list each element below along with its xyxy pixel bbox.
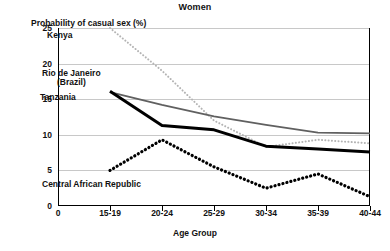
y-axis-tick-label: 10 bbox=[26, 130, 52, 140]
x-axis-tick-label: 25-29 bbox=[203, 208, 225, 218]
series-line-kenya bbox=[110, 28, 370, 147]
x-axis-title: Age Group bbox=[0, 228, 390, 238]
series-annotation-label: Central African Republic bbox=[42, 180, 141, 189]
series-line-tanzania bbox=[110, 91, 370, 152]
x-axis-tick-label: 15-19 bbox=[99, 208, 121, 218]
y-axis-tick-label: 5 bbox=[26, 165, 52, 175]
x-axis-tick-label-origin: 0 bbox=[56, 208, 61, 218]
chart-title: Women bbox=[0, 2, 390, 12]
series-annotation-label: Tanzania bbox=[40, 93, 76, 102]
chart-root: Women Probability of casual sex (%) 0510… bbox=[0, 0, 390, 251]
x-axis-tick-label: 40-44 bbox=[359, 208, 381, 218]
y-axis-tick-label: 0 bbox=[26, 201, 52, 211]
x-axis-tick-label: 20-24 bbox=[151, 208, 173, 218]
series-line-rio-de-janeiro-brazil bbox=[110, 92, 370, 133]
series-annotation-label: Kenya bbox=[47, 31, 73, 40]
series-annotation-label: (Brazil) bbox=[57, 78, 86, 87]
x-axis-tick-label: 35-39 bbox=[307, 208, 329, 218]
x-axis-tick-label: 30-34 bbox=[255, 208, 277, 218]
